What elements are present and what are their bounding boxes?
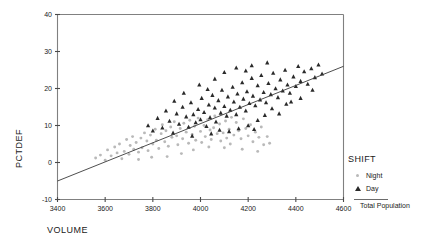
svg-text:40: 40 — [44, 11, 52, 18]
svg-text:-10: -10 — [42, 196, 52, 203]
legend-label-total-population: Total Population — [360, 202, 432, 209]
legend: SHIFT Night Day Total Population — [346, 154, 432, 209]
svg-text:10: 10 — [44, 122, 52, 129]
svg-text:3800: 3800 — [145, 205, 161, 212]
y-axis-title: PCTDEF — [14, 129, 24, 168]
svg-text:3600: 3600 — [97, 205, 113, 212]
dot-marker-icon — [352, 174, 363, 177]
svg-text:30: 30 — [44, 48, 52, 55]
series-day-points — [146, 60, 324, 137]
regression-line — [58, 66, 344, 181]
svg-text:4400: 4400 — [288, 205, 304, 212]
svg-text:20: 20 — [44, 85, 52, 92]
svg-text:0: 0 — [48, 159, 52, 166]
triangle-marker-icon — [352, 186, 363, 191]
x-axis-title: VOLUME — [47, 225, 88, 235]
svg-text:4000: 4000 — [193, 205, 209, 212]
svg-text:3400: 3400 — [50, 205, 66, 212]
legend-divider — [354, 199, 388, 200]
plot-canvas: -10010203040 340036003800400042004400460… — [0, 0, 432, 246]
legend-item-day[interactable]: Day — [352, 182, 432, 195]
legend-label-day: Day — [366, 185, 378, 192]
series-night-points — [94, 114, 271, 161]
scatter-plot-figure: -10010203040 340036003800400042004400460… — [0, 0, 432, 246]
legend-item-night[interactable]: Night — [352, 169, 432, 182]
legend-title: SHIFT — [348, 154, 432, 164]
svg-text:4200: 4200 — [240, 205, 256, 212]
legend-label-night: Night — [366, 172, 382, 179]
